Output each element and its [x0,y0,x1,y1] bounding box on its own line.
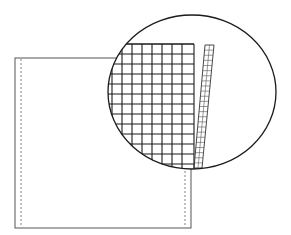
patent-figure [0,0,291,235]
magnifier-background [108,15,276,169]
